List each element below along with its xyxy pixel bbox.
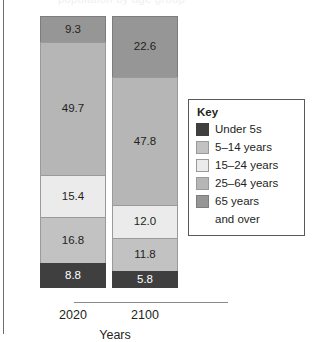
plot-area: Percentage share of population 9.349.715… — [40, 16, 190, 288]
page-border-rule — [3, 0, 4, 334]
bar-segment-value: 22.6 — [134, 41, 156, 53]
bar-segment[interactable]: 16.8 — [40, 217, 106, 263]
x-tick-label-2020: 2020 — [40, 308, 106, 322]
legend-swatch-icon — [196, 177, 209, 190]
legend-item-label: 15–24 years — [215, 157, 278, 174]
bar-segment[interactable]: 8.8 — [40, 263, 106, 288]
legend-swatch-icon — [196, 159, 209, 172]
x-tick-label-2100: 2100 — [112, 308, 178, 322]
legend-item[interactable]: 65 years — [196, 193, 297, 211]
bar-segment-value: 49.7 — [62, 103, 84, 115]
legend-item[interactable]: 15–24 years — [196, 157, 297, 175]
legend-item-label: 5–14 years — [215, 139, 272, 156]
legend-item-label: 65 years — [215, 193, 259, 210]
clipped-title-text: population by age group — [58, 0, 185, 5]
legend-item[interactable]: 5–14 years — [196, 139, 297, 157]
bar-segment-value: 47.8 — [134, 136, 156, 148]
bar-segment[interactable]: 22.6 — [112, 16, 178, 77]
legend-item-label: 25–64 years — [215, 175, 278, 192]
legend-box: Key Under 5s5–14 years15–24 years25–64 y… — [188, 99, 305, 236]
bar-segment[interactable]: 49.7 — [40, 42, 106, 175]
legend-item[interactable]: Under 5s — [196, 121, 297, 139]
bar-segment-value: 9.3 — [65, 24, 81, 36]
x-axis-baseline — [74, 302, 228, 303]
legend-item[interactable]: 25–64 years — [196, 175, 297, 193]
legend-swatch-icon — [196, 123, 209, 136]
bar-segment[interactable]: 12.0 — [112, 205, 178, 238]
legend-swatch-icon — [196, 141, 209, 154]
legend-item-label-continued: and over — [215, 211, 297, 228]
legend-swatch-icon — [196, 195, 209, 208]
bar-segment[interactable]: 11.8 — [112, 238, 178, 270]
bar-segment-value: 12.0 — [134, 216, 156, 228]
bar-segment[interactable]: 5.8 — [112, 271, 178, 288]
bar-segment-value: 15.4 — [62, 191, 84, 203]
legend-title: Key — [197, 106, 297, 118]
legend-items: Under 5s5–14 years15–24 years25–64 years… — [196, 121, 297, 228]
bar-segment-value: 8.8 — [65, 270, 81, 282]
bar-segment-value: 16.8 — [62, 235, 84, 247]
bar-segment[interactable]: 47.8 — [112, 77, 178, 205]
stacked-bar-2020[interactable]: 9.349.715.416.88.8 — [40, 16, 106, 288]
bar-segment[interactable]: 15.4 — [40, 175, 106, 217]
bar-segment-value: 5.8 — [137, 274, 153, 286]
stacked-bar-2100[interactable]: 22.647.812.011.85.8 — [112, 16, 178, 288]
x-axis-label: Years — [40, 328, 190, 342]
bar-segment-value: 11.8 — [134, 249, 156, 261]
legend-item-label: Under 5s — [215, 121, 262, 138]
bar-segment[interactable]: 9.3 — [40, 16, 106, 42]
